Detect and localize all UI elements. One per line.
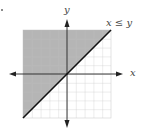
- y-axis-arrow-up: [65, 19, 70, 27]
- x-axis-arrow-left: [9, 72, 16, 77]
- y-axis-arrow-down: [65, 120, 70, 128]
- x-axis-arrow-right: [116, 72, 123, 77]
- x-axis-label: x: [130, 68, 136, 78]
- inequality-label: x ≤ y: [106, 18, 132, 28]
- y-axis-label: y: [64, 5, 70, 15]
